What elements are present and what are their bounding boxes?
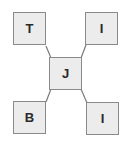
node-top-left: T [13,12,46,45]
node-label: J [62,66,69,81]
node-label: T [26,21,34,36]
star-diagram: T I J B I [0,0,130,143]
connector-bottom-right [81,89,87,103]
node-label: B [25,110,34,125]
connector-bottom-left [46,89,51,102]
node-label: I [100,21,104,36]
node-label: I [101,111,105,126]
node-bottom-left: B [13,101,46,134]
node-top-right: I [85,12,118,45]
node-bottom-right: I [86,102,119,135]
node-center: J [49,57,82,90]
